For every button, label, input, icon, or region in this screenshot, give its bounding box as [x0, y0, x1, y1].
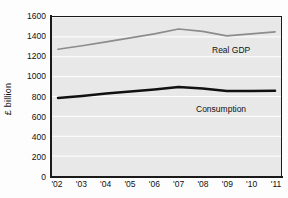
series-lines [58, 29, 275, 98]
x-axis-tick-label: '09 [222, 179, 233, 189]
y-axis-tick-label: 400 [32, 132, 46, 142]
x-axis-tick-label: '10 [246, 179, 257, 189]
y-axis-tick-label: 600 [32, 112, 46, 122]
x-axis-tick-label: '08 [197, 179, 208, 189]
x-axis-tick-label: '06 [149, 179, 160, 189]
gridlines [52, 17, 281, 156]
x-axis-tick-label: '07 [173, 179, 184, 189]
x-axis-tick-label: '02 [51, 179, 62, 189]
series-label-consumption: Consumption [196, 104, 246, 114]
chart-figure: £ billion 02004006008001000120014001600 … [0, 0, 288, 198]
y-axis-tick-labels: 02004006008001000120014001600 [14, 12, 49, 177]
y-axis-title-text: £ billion [3, 83, 13, 115]
x-axis-tick-label: '11 [271, 179, 281, 189]
x-axis-tick-label: '03 [76, 179, 87, 189]
y-axis-tick-label: 1400 [27, 31, 46, 41]
y-axis-tick-label: 0 [41, 172, 46, 182]
series-label-real-gdp: Real GDP [212, 45, 250, 55]
plot-area [51, 16, 282, 177]
y-axis-tick-label: 1200 [27, 51, 46, 61]
x-axis-tick-label: '05 [124, 179, 135, 189]
y-axis-tick-label: 1600 [27, 11, 46, 21]
plot-svg [52, 17, 281, 176]
y-axis-title: £ billion [1, 0, 15, 198]
x-axis-tick-labels: '02'03'04'05'06'07'08'09'10'11 [51, 179, 282, 195]
y-axis-tick-label: 1000 [27, 71, 46, 81]
x-axis-tick-label: '04 [100, 179, 111, 189]
y-axis-tick-label: 800 [32, 92, 46, 102]
y-axis-tick-label: 200 [32, 152, 46, 162]
